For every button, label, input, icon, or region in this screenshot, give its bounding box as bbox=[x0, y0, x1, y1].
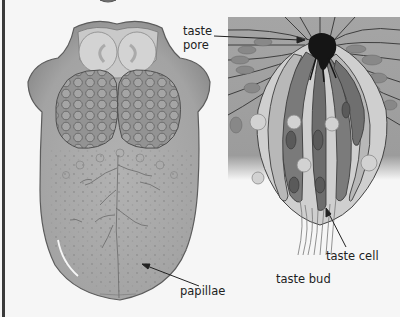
taste-pore-label-line2: pore bbox=[183, 38, 212, 52]
papillae-label: papillae bbox=[180, 284, 225, 298]
taste-bud bbox=[228, 17, 400, 255]
lingual-tonsil-right bbox=[118, 70, 181, 148]
taste-pore-label: taste pore bbox=[183, 24, 212, 52]
top-partial-shape bbox=[100, 0, 116, 2]
tongue bbox=[28, 21, 210, 300]
vallecula-right bbox=[118, 32, 156, 72]
taste-bud-label: taste bud bbox=[276, 272, 331, 286]
taste-pore-label-line1: taste bbox=[183, 24, 212, 38]
taste-cell-label: taste cell bbox=[326, 249, 379, 263]
vallecula-left bbox=[79, 32, 117, 72]
